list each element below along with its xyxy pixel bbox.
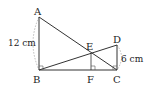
label-c: C: [113, 74, 121, 85]
label-f: F: [87, 74, 94, 85]
measurement-cd: 6 cm: [121, 54, 144, 64]
label-d: D: [113, 34, 121, 45]
segment-ac: [39, 17, 117, 70]
measurement-ab: 12 cm: [8, 38, 36, 48]
right-angle-mark-f: [91, 66, 95, 70]
geometry-diagram: A B C D E F 12 cm 6 cm: [0, 0, 150, 89]
label-b: B: [33, 74, 40, 85]
label-a: A: [33, 6, 42, 17]
segment-bd: [39, 45, 117, 70]
label-e: E: [86, 41, 93, 52]
